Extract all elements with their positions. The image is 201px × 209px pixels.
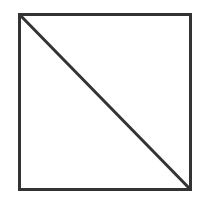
diagonal-line [20,15,191,190]
square-diagonal-diagram [0,0,201,209]
